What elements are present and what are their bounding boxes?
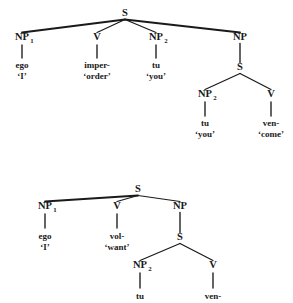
leaf-word-text: ego — [16, 60, 29, 70]
tree-leaf-ego: ego‘I’ — [16, 45, 29, 81]
leaf-gloss-text: ‘I’ — [40, 242, 50, 252]
leaf-word-text: ven- — [205, 291, 222, 301]
tree-node-np-2: NP2 — [198, 88, 217, 101]
tree-leaf-tu: tu‘you’ — [146, 45, 166, 81]
tree-node-np: NP — [173, 200, 188, 211]
tree-leaf-ven: ven- — [205, 273, 222, 301]
node-label-text: V — [93, 31, 101, 42]
tree-leaf-ven: ven-‘come’ — [258, 102, 284, 139]
tree-node-s: S — [122, 7, 128, 18]
tree-leaf-imper: imper-‘order’ — [83, 45, 111, 81]
node-label-text: NP — [233, 31, 248, 42]
node-subscript: 1 — [30, 37, 34, 44]
tree-leaf-vol: vol-‘want’ — [105, 214, 130, 252]
node-subscript: 2 — [148, 265, 152, 272]
node-label-text: NP — [198, 88, 213, 99]
node-label-text: S — [135, 183, 141, 194]
tree-node-v: V — [209, 259, 217, 270]
tree-edge-l-S1-to-l-V2 — [180, 244, 213, 261]
tree-leaf-ego: ego‘I’ — [39, 214, 52, 252]
leaf-word-text: ven- — [263, 118, 280, 128]
leaf-word-text: vol- — [110, 231, 125, 241]
leaf-word-text: tu — [152, 60, 160, 70]
tree-edge-l-S1-to-l-NP4 — [140, 244, 180, 261]
tree-node-np: NP — [233, 31, 248, 42]
tree-edge-u-S0-to-u-NP3 — [125, 20, 240, 33]
node-label-text: V — [113, 200, 121, 211]
node-subscript: 2 — [164, 37, 168, 44]
node-label-text: NP — [173, 200, 188, 211]
tree-edge-l-S0-to-l-NP1 — [45, 196, 138, 202]
node-label-text: S — [122, 7, 128, 18]
tree-node-np-1: NP1 — [38, 200, 57, 213]
leaf-gloss-text: ‘you’ — [146, 71, 166, 81]
tree-node-v: V — [113, 200, 121, 211]
leaf-word-text: tu — [136, 291, 144, 301]
tree-node-v: V — [93, 31, 101, 42]
tree-leaf-tu: tu — [136, 273, 144, 301]
tree-leaves-layer: ego‘I’imper-‘order’tu‘you’tu‘you’ven-‘co… — [16, 45, 284, 301]
leaf-word-text: tu — [201, 118, 209, 128]
node-label-text: NP — [15, 31, 30, 42]
tree-node-s: S — [177, 231, 183, 242]
tree-diagram-figure: SNP1VNP2NPSNP2VSNP1VNPSNP2V ego‘I’imper-… — [0, 0, 293, 303]
tree-diagram-canvas: SNP1VNP2NPSNP2VSNP1VNPSNP2V ego‘I’imper-… — [0, 0, 293, 303]
node-subscript: 1 — [53, 206, 57, 213]
leaf-gloss-text: ‘you’ — [195, 129, 215, 139]
tree-node-np-1: NP1 — [15, 31, 34, 44]
node-label-text: V — [267, 88, 275, 99]
tree-node-v: V — [267, 88, 275, 99]
node-label-text: S — [177, 231, 183, 242]
node-label-text: NP — [38, 200, 53, 211]
node-label-text: NP — [149, 31, 164, 42]
tree-node-np-2: NP2 — [133, 259, 152, 272]
node-subscript: 2 — [213, 94, 217, 101]
leaf-gloss-text: ‘I’ — [17, 71, 27, 81]
leaf-gloss-text: ‘want’ — [105, 242, 130, 252]
leaf-gloss-text: ‘come’ — [258, 129, 284, 139]
tree-node-np-2: NP2 — [149, 31, 168, 44]
leaf-word-text: imper- — [84, 60, 110, 70]
node-label-text: S — [237, 61, 243, 72]
node-label-text: V — [209, 259, 217, 270]
leaf-gloss-text: ‘order’ — [83, 71, 111, 81]
tree-edges-layer — [22, 20, 271, 261]
node-label-text: NP — [133, 259, 148, 270]
tree-leaf-tu: tu‘you’ — [195, 102, 215, 139]
tree-nodes-layer: SNP1VNP2NPSNP2VSNP1VNPSNP2V — [15, 7, 275, 272]
leaf-word-text: ego — [39, 231, 52, 241]
tree-node-s: S — [135, 183, 141, 194]
tree-node-s: S — [237, 61, 243, 72]
